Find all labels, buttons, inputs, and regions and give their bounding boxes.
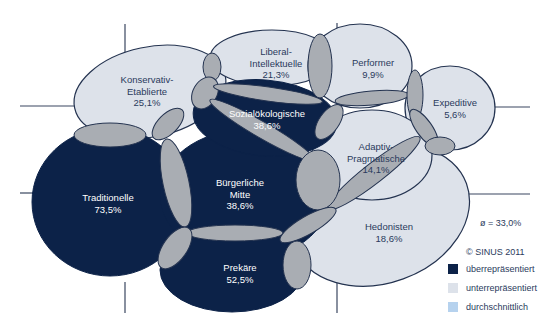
label-buergerlich: Bürgerliche Mitte 38,6%	[216, 177, 264, 212]
milieu-name: Bürgerliche	[216, 177, 264, 189]
label-performer: Performer 9,9%	[352, 57, 394, 80]
milieu-value: 38,6%	[229, 120, 305, 132]
milieu-name: Etablierte	[121, 86, 174, 98]
milieu-name: Prekäre	[223, 262, 256, 274]
milieu-value: 25,1%	[121, 97, 174, 109]
legend-item-over: überrepräsentiert	[448, 259, 548, 278]
milieu-name: Mitte	[216, 189, 264, 201]
legend-label: überrepräsentiert	[466, 264, 535, 274]
legend: überrepräsentiert unterrepräsentiert dur…	[448, 259, 548, 316]
label-traditionelle: Traditionelle 73,5%	[82, 192, 133, 215]
overlap	[74, 123, 146, 147]
milieu-name: Traditionelle	[82, 192, 133, 204]
milieu-name: Hedonisten	[365, 221, 413, 233]
milieu-value: 73,5%	[82, 204, 133, 216]
milieu-value: 5,6%	[433, 109, 477, 121]
milieu-name: Expeditive	[433, 97, 477, 109]
legend-label: unterrepräsentiert	[466, 283, 537, 293]
label-konservativ: Konservativ- Etablierte 25,1%	[121, 74, 174, 109]
copyright: © SINUS 2011	[466, 247, 525, 257]
legend-item-average: durchschnittlich	[448, 297, 548, 316]
overlap	[187, 225, 283, 241]
label-hedonisten: Hedonisten 18,6%	[365, 221, 413, 244]
label-prekaere: Prekäre 52,5%	[223, 262, 256, 285]
overlap	[308, 34, 332, 98]
milieu-name: Konservativ-	[121, 74, 174, 86]
milieu-name: Adaptiv-	[347, 141, 405, 153]
milieu-value: 14,1%	[347, 164, 405, 176]
milieu-value: 52,5%	[223, 274, 256, 286]
milieu-name: Pragmatische	[347, 153, 405, 165]
swatch-blue	[448, 302, 458, 312]
milieu-value: 9,9%	[352, 69, 394, 81]
label-sozial: Sozialökologische 38,6%	[229, 108, 305, 131]
overlap	[425, 137, 455, 155]
label-expeditive: Expeditive 5,6%	[433, 97, 477, 120]
milieu-name: Sozialökologische	[229, 108, 305, 120]
legend-label: durchschnittlich	[466, 302, 528, 312]
label-adaptiv: Adaptiv- Pragmatische 14,1%	[347, 141, 405, 176]
milieu-value: 21,3%	[250, 69, 303, 81]
milieu-value: 38,6%	[216, 200, 264, 212]
swatch-dark	[448, 264, 458, 274]
overlap	[283, 241, 311, 289]
overlap	[296, 150, 340, 210]
legend-item-under: unterrepräsentiert	[448, 278, 548, 297]
average-value: ø = 33,0%	[480, 218, 521, 228]
label-liberal: Liberal- Intellektuelle 21,3%	[250, 46, 303, 81]
milieu-value: 18,6%	[365, 233, 413, 245]
milieu-name: Liberal-	[250, 46, 303, 58]
milieu-name: Performer	[352, 57, 394, 69]
swatch-light	[448, 283, 458, 293]
milieu-name: Intellektuelle	[250, 58, 303, 70]
overlap	[203, 53, 221, 81]
